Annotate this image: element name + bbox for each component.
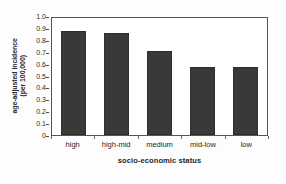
bar-slot (138, 18, 181, 135)
y-axis-title: age-adjusted incidence (per 100,000) (8, 16, 30, 136)
y-axis-tick-label: 0.8 (36, 37, 46, 45)
y-axis-title-text: age-adjusted incidence (per 100,000) (11, 38, 27, 113)
bar[interactable] (147, 51, 172, 135)
y-axis-tick-label: 0.4 (36, 84, 46, 92)
y-axis-tick-mark (46, 136, 49, 137)
y-axis-tick-mark (46, 77, 49, 78)
y-axis-tick-label: 0.5 (36, 73, 46, 81)
y-axis-tick-mark (46, 41, 49, 42)
y-axis-title-line-2: (per 100,000) (19, 38, 27, 113)
bar[interactable] (61, 31, 86, 135)
x-axis-tick-label: high-mid (94, 140, 137, 152)
y-axis-tick-mark (46, 65, 49, 66)
x-axis-title: socio-economic status (51, 156, 268, 165)
y-axis-ticks: 1.00.90.80.70.60.50.40.30.20.10 (30, 13, 49, 139)
y-axis-tick-label: 1.0 (36, 13, 46, 21)
bar[interactable] (104, 33, 129, 135)
x-axis-tick-label: mid-low (181, 140, 224, 152)
y-axis-tick-mark (46, 53, 49, 54)
y-axis-tick-mark (46, 124, 49, 125)
y-axis-tick-label: 0.9 (36, 25, 46, 33)
y-axis-tick-label: 0.1 (36, 120, 46, 128)
y-axis-tick-mark (46, 112, 49, 113)
bar-slot (52, 18, 95, 135)
x-axis-tick-label: high (51, 140, 94, 152)
bar-chart-figure: age-adjusted incidence (per 100,000) 1.0… (0, 0, 286, 184)
y-axis-tick-label: 0.2 (36, 108, 46, 116)
x-axis-tick-mark (94, 136, 95, 139)
bar-group (52, 18, 267, 135)
plot-area (51, 17, 268, 136)
y-axis-tick-mark (46, 88, 49, 89)
y-axis-tick-label: 0.7 (36, 49, 46, 57)
y-axis-tick-label: 0.3 (36, 96, 46, 104)
y-axis-tick-mark (46, 100, 49, 101)
x-axis-tick-mark (225, 136, 226, 139)
x-axis-tick-mark (138, 136, 139, 139)
y-axis-tick-mark (46, 29, 49, 30)
x-axis-tick-labels: highhigh-midmediummid-lowlow (51, 140, 268, 152)
y-axis-tick-label: 0.6 (36, 61, 46, 69)
x-axis-tick-label: low (225, 140, 268, 152)
bar-slot (224, 18, 267, 135)
bar[interactable] (233, 67, 258, 135)
bar-slot (181, 18, 224, 135)
bar[interactable] (190, 67, 215, 135)
y-axis-tick-mark (46, 17, 49, 18)
x-axis-tick-mark (181, 136, 182, 139)
bar-slot (95, 18, 138, 135)
x-axis-tick-mark (268, 136, 269, 139)
x-axis-tick-label: medium (138, 140, 181, 152)
x-axis-tick-mark (51, 136, 52, 139)
